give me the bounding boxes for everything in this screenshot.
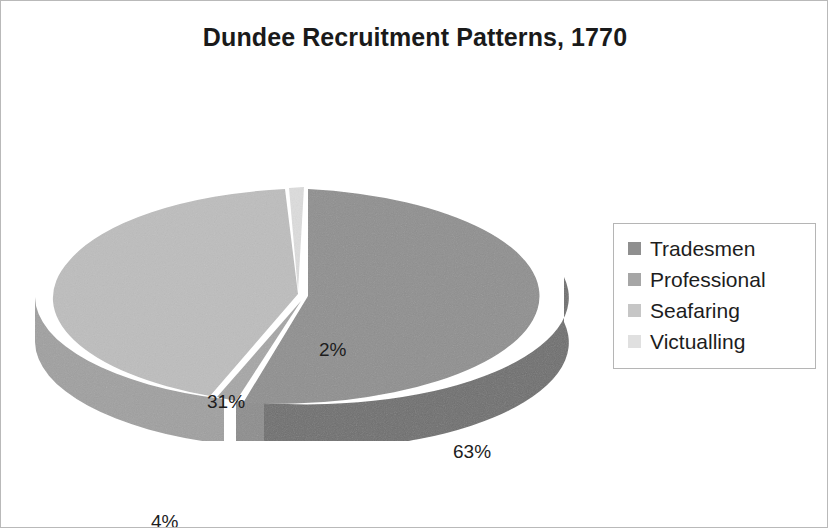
data-label-seafaring: 31% bbox=[207, 391, 245, 413]
legend-item-seafaring[interactable]: Seafaring bbox=[628, 295, 815, 326]
legend-swatch-icon bbox=[628, 242, 641, 255]
legend-label: Tradesmen bbox=[650, 238, 755, 259]
legend-swatch-icon bbox=[628, 335, 641, 348]
pie-chart-plot-area[interactable]: 2% 31% 4% 63% bbox=[21, 151, 601, 441]
legend-swatch-icon bbox=[628, 273, 641, 286]
legend-item-victualling[interactable]: Victualling bbox=[628, 326, 815, 357]
data-label-victualling: 2% bbox=[319, 339, 346, 361]
legend-item-professional[interactable]: Professional bbox=[628, 264, 815, 295]
chart-title: Dundee Recruitment Patterns, 1770 bbox=[1, 23, 828, 52]
legend-item-tradesmen[interactable]: Tradesmen bbox=[628, 233, 815, 264]
data-label-tradesmen: 63% bbox=[453, 441, 491, 463]
legend-label: Victualling bbox=[650, 331, 745, 352]
legend-label: Seafaring bbox=[650, 300, 740, 321]
chart-frame: Dundee Recruitment Patterns, 1770 bbox=[0, 0, 828, 528]
data-label-professional: 4% bbox=[151, 511, 178, 528]
legend-swatch-icon bbox=[628, 304, 641, 317]
legend-label: Professional bbox=[650, 269, 766, 290]
chart-legend[interactable]: Tradesmen Professional Seafaring Victual… bbox=[613, 223, 816, 369]
pie-chart-svg bbox=[21, 151, 601, 441]
